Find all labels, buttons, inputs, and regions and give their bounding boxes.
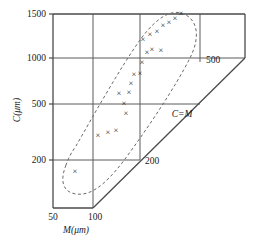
y-tick-label-500: 500 [32,99,47,109]
data-point-marker: × [129,78,134,88]
data-point-marker: × [155,26,160,36]
data-point-marker: × [96,130,101,140]
scatter-chart: ×××××××××××××××××××××× 1500 1000 500 200… [0,0,254,241]
data-points-group: ×××××××××××××××××××××× [73,8,184,176]
depth-tick-label-200: 200 [145,156,160,166]
data-point-marker: × [167,17,172,27]
diagonal-axis-title: C=M [172,109,194,119]
y-axis-title: C(μm) [12,98,23,122]
data-point-marker: × [124,108,129,118]
data-point-marker: × [132,69,137,79]
data-point-marker: × [138,68,143,78]
data-point-marker: × [148,29,153,39]
data-point-marker: × [150,44,155,54]
x-axis-title: M(μm) [62,225,89,236]
data-point-marker: × [122,98,127,108]
data-point-marker: × [127,87,132,97]
data-point-marker: × [141,34,146,44]
data-point-marker: × [73,166,78,176]
y-tick-label-200: 200 [32,155,47,165]
y-tick-label-1000: 1000 [27,53,46,63]
data-point-marker: × [179,8,184,18]
data-point-marker: × [114,125,119,135]
dashed-envelope [63,12,197,194]
x-tick-label-50: 50 [48,212,58,222]
data-point-marker: × [117,88,122,98]
chart-canvas: ×××××××××××××××××××××× 1500 1000 500 200… [0,0,254,241]
data-point-marker: × [161,20,166,30]
data-point-marker: × [106,127,111,137]
depth-tick-label-500: 500 [206,55,221,65]
data-point-marker: × [159,45,164,55]
x-tick-label-100: 100 [88,212,103,222]
y-tick-label-1500: 1500 [27,9,46,19]
data-point-marker: × [140,57,145,67]
data-point-marker: × [173,13,178,23]
envelope-outline [63,12,197,194]
